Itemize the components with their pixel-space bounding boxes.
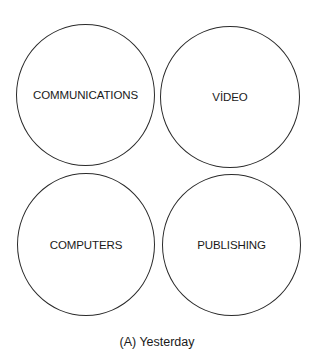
circle-label: VİDEO: [212, 91, 247, 103]
circle-computers: COMPUTERS: [17, 173, 155, 316]
circle-label: PUBLISHING: [197, 239, 266, 251]
circle-label: COMPUTERS: [50, 239, 123, 251]
circle-communications: COMMUNICATIONS: [16, 24, 155, 166]
figure-caption: (A) Yesterday: [0, 335, 314, 349]
circle-publishing: PUBLISHING: [162, 174, 301, 316]
circle-video: VİDEO: [160, 26, 300, 168]
circle-label: COMMUNICATIONS: [33, 89, 138, 101]
